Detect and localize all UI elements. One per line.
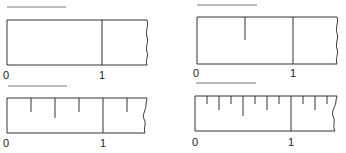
ruler-outline (197, 17, 338, 64)
ruler-outline (195, 96, 337, 131)
label-zero: 0 (193, 67, 199, 79)
label-one: 1 (290, 67, 296, 79)
label-one: 1 (99, 69, 105, 81)
ruler-panel-quarters (7, 86, 147, 133)
label-one: 1 (288, 136, 294, 148)
ruler-outline (7, 20, 148, 65)
label-zero: 0 (3, 69, 9, 81)
ruler-panel-eighths (195, 83, 337, 131)
label-zero: 0 (3, 137, 9, 149)
ruler-panel-whole (7, 7, 148, 65)
rulers-figure: 0 1 0 1 0 1 0 1 (0, 0, 346, 153)
label-one: 1 (100, 137, 106, 149)
label-zero: 0 (192, 136, 198, 148)
ruler-panel-halves (197, 5, 338, 64)
ruler-outline (7, 98, 147, 133)
